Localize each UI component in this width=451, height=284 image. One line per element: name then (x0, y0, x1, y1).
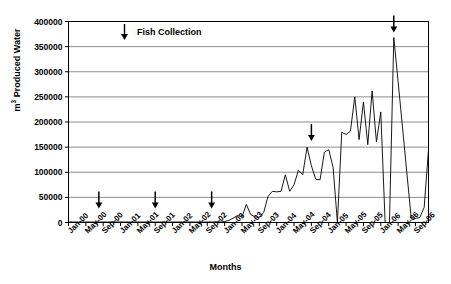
annotation-down-arrow-icon (152, 191, 159, 208)
y-axis-tick-label: 100000 (0, 167, 63, 177)
y-axis-tick-label: 250000 (0, 92, 63, 102)
annotation-down-arrow-icon (390, 16, 397, 33)
chart-plot-area (0, 0, 451, 284)
y-axis-tick-label: 300000 (0, 67, 63, 77)
annotation-down-arrow-icon (95, 191, 102, 208)
chart-container: m3 Produced Water Months Fish Collection… (0, 0, 451, 284)
data-series-line (69, 38, 429, 223)
y-axis-tick-label: 50000 (0, 192, 63, 202)
y-axis-tick-label: 150000 (0, 142, 63, 152)
y-axis-tick-label: 400000 (0, 17, 63, 27)
annotation-down-arrow-icon (308, 124, 315, 141)
y-axis-tick-label: 200000 (0, 117, 63, 127)
y-axis-tick-label: 350000 (0, 42, 63, 52)
annotation-down-arrow-icon (208, 191, 215, 208)
y-axis-tick-label: 0 (0, 218, 63, 228)
